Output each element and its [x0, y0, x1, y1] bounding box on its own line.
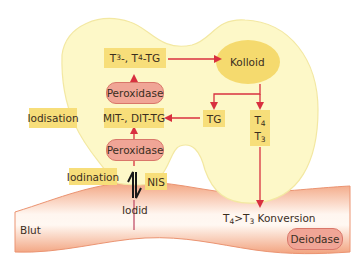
t3-t4-tg-label: T3-, T4-TG [104, 48, 166, 68]
tg-label: TG [203, 110, 225, 127]
deiodase-enzyme: Deiodase [287, 228, 343, 250]
nis-label: NIS [145, 173, 167, 190]
mit-dit-tg-label: MIT-, DIT-TG [104, 108, 164, 128]
t4-t3-label: T4 T3 [250, 110, 270, 146]
iodisation-label: Iodisation [29, 108, 77, 128]
peroxidase-bottom-enzyme: Peroxidase [106, 139, 164, 161]
blut-label: Blut [20, 225, 41, 236]
konversion-label: T4>T3 Konversion [223, 213, 315, 224]
kolloid-label: Kolloid [230, 57, 265, 68]
iodination-label: Iodination [69, 168, 117, 185]
iodid-label: Iodid [122, 205, 148, 216]
peroxidase-top-enzyme: Peroxidase [106, 82, 164, 104]
